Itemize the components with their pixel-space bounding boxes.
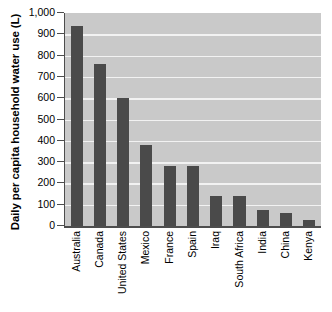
x-axis-tick-labels: AustraliaCanadaUnited StatesMexicoFrance… xyxy=(64,229,320,309)
x-axis-tick-label: China xyxy=(280,231,291,258)
bar xyxy=(257,210,269,226)
bar xyxy=(164,166,176,226)
bar xyxy=(233,196,245,226)
x-axis-tick-label: Australia xyxy=(71,231,82,272)
x-axis-tick: Mexico xyxy=(134,229,157,309)
bar xyxy=(94,64,106,226)
x-axis-tick: Kenya xyxy=(297,229,320,309)
y-axis-tick-label: 800 xyxy=(16,50,55,60)
x-axis-tick-label: Canada xyxy=(94,231,105,268)
y-axis-tick-label: 500 xyxy=(16,114,55,124)
y-axis-tick-label: 700 xyxy=(16,71,55,81)
y-axis-tick-label: 400 xyxy=(16,135,55,145)
bar xyxy=(117,98,129,226)
y-axis-tick-mark xyxy=(57,12,64,13)
x-axis-tick: Iraq xyxy=(204,229,227,309)
y-axis-tick-mark xyxy=(57,119,64,120)
y-axis-tick-mark xyxy=(57,76,64,77)
y-axis-tick-marks xyxy=(57,12,64,226)
x-axis-tick: Australia xyxy=(64,229,87,309)
x-axis-tick-label: Kenya xyxy=(303,231,314,261)
x-axis-tick: South Africa xyxy=(227,229,250,309)
x-axis-tick: United States xyxy=(111,229,134,309)
x-axis-line xyxy=(64,226,321,228)
x-axis-tick-label: South Africa xyxy=(234,231,245,288)
bar xyxy=(210,196,222,226)
y-axis-tick-label: 200 xyxy=(16,177,55,187)
y-axis-tick-label: 100 xyxy=(16,199,55,209)
x-axis-tick: Spain xyxy=(180,229,203,309)
bars-layer xyxy=(65,13,321,226)
y-axis-tick-mark xyxy=(57,161,64,162)
x-axis-tick: China xyxy=(273,229,296,309)
y-axis-tick-label: 900 xyxy=(16,28,55,38)
y-axis-tick-mark xyxy=(57,97,64,98)
x-axis-tick: France xyxy=(157,229,180,309)
bar-chart: Daily per capita household water use (L)… xyxy=(0,0,332,312)
y-axis-tick-mark xyxy=(57,225,64,226)
x-axis-tick: Canada xyxy=(87,229,110,309)
x-axis-tick-label: France xyxy=(164,231,175,264)
x-axis-tick-label: India xyxy=(257,231,268,254)
plot-area xyxy=(64,13,321,226)
x-axis-tick-label: Mexico xyxy=(140,231,151,264)
y-axis-tick-label: 0 xyxy=(16,220,55,230)
x-axis-tick-label: United States xyxy=(117,231,128,294)
y-axis-tick-labels: 1,0009008007006005004003002001000 xyxy=(16,12,55,226)
bar xyxy=(280,213,292,226)
y-axis-tick-label: 1,000 xyxy=(16,7,55,17)
y-axis-tick-mark xyxy=(57,204,64,205)
bar xyxy=(140,145,152,226)
y-axis-tick-label: 300 xyxy=(16,156,55,166)
y-axis-tick-mark xyxy=(57,140,64,141)
y-axis-tick-mark xyxy=(57,33,64,34)
y-axis-tick-mark xyxy=(57,182,64,183)
x-axis-tick-label: Iraq xyxy=(210,231,221,249)
y-axis-tick-label: 600 xyxy=(16,92,55,102)
x-axis-tick: India xyxy=(250,229,273,309)
bar xyxy=(187,166,199,226)
y-axis-tick-mark xyxy=(57,55,64,56)
bar xyxy=(71,26,83,226)
x-axis-tick-label: Spain xyxy=(187,231,198,258)
